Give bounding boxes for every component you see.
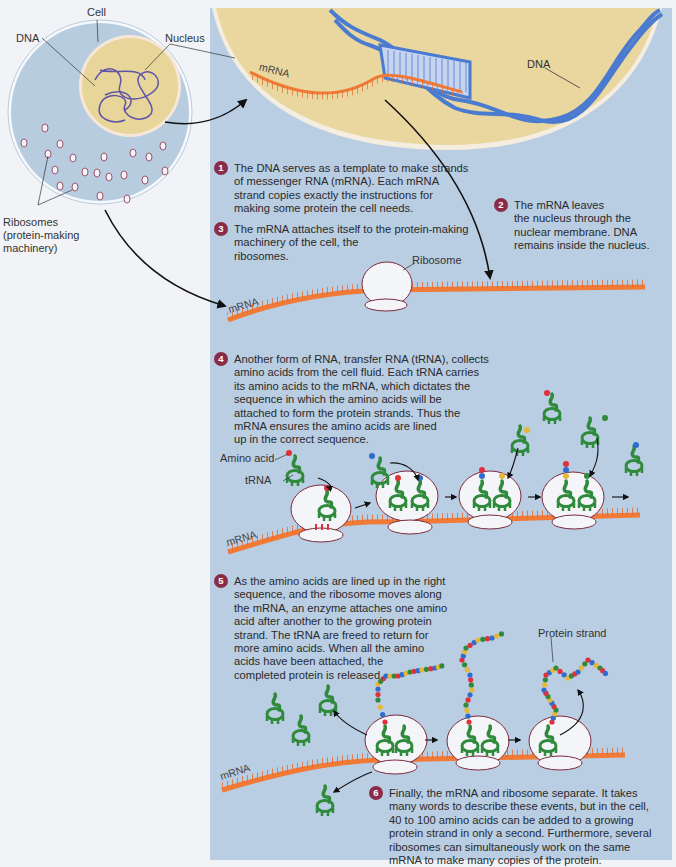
- step-5: 5 As the amino acids are lined up in the…: [234, 575, 447, 682]
- label-protein-strand: Protein strand: [538, 627, 606, 640]
- step-5-line: more amino acids. When all the amino: [234, 642, 447, 655]
- label-cell: Cell: [87, 6, 106, 19]
- step-6-line: mRNA to make many copies of the protein.: [389, 854, 651, 867]
- step-1: 1 The DNA serves as a template to make s…: [234, 162, 468, 216]
- step-1-badge: 1: [214, 161, 228, 175]
- step-6-line: protein strand in only a second. Further…: [389, 827, 651, 840]
- step-3-line: The mRNA attaches itself to the protein-…: [234, 223, 468, 236]
- step-1-line: The DNA serves as a template to make str…: [234, 162, 468, 175]
- step-5-line: sequence, and the ribosome moves along: [234, 588, 447, 601]
- step-5-badge: 5: [214, 574, 228, 588]
- label-dna-left: DNA: [16, 32, 39, 45]
- label-trna: tRNA: [245, 474, 271, 487]
- step-6-line: 40 to 100 amino acids can be added to a …: [389, 814, 651, 827]
- label-amino-acid: Amino acid: [220, 452, 274, 465]
- step-3-badge: 3: [214, 222, 228, 236]
- step-6-badge: 6: [369, 786, 383, 800]
- step-4-line: mRNA ensures the amino acids are lined: [234, 420, 489, 433]
- step-6-line: ribosomes can simultaneously work on the…: [389, 841, 651, 854]
- step-6-line: Finally, the mRNA and ribosome separate.…: [389, 787, 651, 800]
- arrow-ribosome-to-mrna: [105, 210, 225, 306]
- step-5-line: completed protein is released.: [234, 669, 447, 682]
- label-ribosomes-sub2: machinery): [3, 242, 79, 255]
- label-ribosomes-sub1: (protein-making: [3, 229, 79, 242]
- step-1-line: of messenger RNA (mRNA). Each mRNA: [234, 175, 468, 188]
- step-2-line: remains inside the nucleus.: [514, 239, 650, 252]
- step-2-badge: 2: [494, 198, 508, 212]
- step-3: 3 The mRNA attaches itself to the protei…: [234, 223, 468, 263]
- step-5-line: the mRNA, an enzyme attaches one amino: [234, 602, 447, 615]
- step-2-line: The mRNA leaves: [514, 199, 650, 212]
- cell: [8, 20, 235, 205]
- label-ribosomes: Ribosomes (protein-making machinery): [3, 216, 79, 255]
- label-dna-right: DNA: [527, 58, 550, 71]
- step-5-line: strand. The tRNA are freed to return for: [234, 629, 447, 642]
- step-4-line: amino acids from the cell fluid. Each tR…: [234, 366, 489, 379]
- step-4-line: its amino acids to the mRNA, which dicta…: [234, 380, 489, 393]
- step-6: 6 Finally, the mRNA and ribosome separat…: [389, 787, 651, 867]
- step-6-line: many words to describe these events, but…: [389, 800, 651, 813]
- step-5-line: As the amino acids are lined up in the r…: [234, 575, 447, 588]
- step-4-line: up in the correct sequence.: [234, 433, 489, 446]
- label-ribosomes-title: Ribosomes: [3, 216, 79, 229]
- step-5-line: acid after another to the growing protei…: [234, 615, 447, 628]
- step-4-line: attached to form the protein strands. Th…: [234, 407, 489, 420]
- step-2-line: nuclear membrane. DNA: [514, 226, 650, 239]
- step-3-line: machinery of the cell, the: [234, 236, 468, 249]
- step-2: 2 The mRNA leaves the nucleus through th…: [514, 199, 650, 253]
- step-4: 4 Another form of RNA, transfer RNA (tRN…: [234, 353, 489, 447]
- label-nucleus: Nucleus: [165, 32, 205, 45]
- step-4-line: Another form of RNA, transfer RNA (tRNA)…: [234, 353, 489, 366]
- step-1-line: making some protein the cell needs.: [234, 202, 468, 215]
- step-1-line: strand copies exactly the instructions f…: [234, 189, 468, 202]
- step-4-line: sequence in which the amino acids will b…: [234, 393, 489, 406]
- step-5-line: acids have been attached, the: [234, 655, 447, 668]
- step-2-line: the nucleus through the: [514, 212, 650, 225]
- step-3-line: ribosomes.: [234, 250, 468, 263]
- step-4-badge: 4: [214, 352, 228, 366]
